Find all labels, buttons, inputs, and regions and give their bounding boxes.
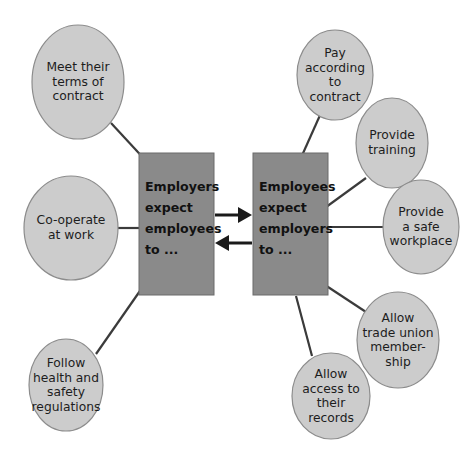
connector-allow-trade-union-membership bbox=[325, 285, 366, 312]
node-meet-terms-of-contract[interactable] bbox=[32, 25, 124, 139]
connector-allow-access-to-records bbox=[296, 296, 312, 356]
node-pay-according-to-contract[interactable] bbox=[297, 30, 373, 120]
node-co-operate-at-work[interactable] bbox=[24, 176, 118, 280]
label-employees-expect: Employees expect employers to ... bbox=[259, 176, 329, 260]
arrow-employers-to-employees-head bbox=[238, 207, 252, 223]
connector-follow-health-and-safety bbox=[96, 288, 142, 354]
node-provide-safe-workplace[interactable] bbox=[383, 180, 459, 274]
node-allow-trade-union-membership[interactable] bbox=[357, 292, 439, 388]
node-provide-training[interactable] bbox=[356, 98, 428, 188]
diagram-canvas: Meet their terms of contract Co-operate … bbox=[0, 0, 472, 459]
diagram-vector-layer bbox=[0, 0, 472, 459]
ellipse-group bbox=[24, 25, 459, 439]
arrow-employees-to-employers-head bbox=[215, 235, 229, 251]
node-allow-access-to-records[interactable] bbox=[292, 353, 370, 439]
label-employers-expect: Employers expect employees to ... bbox=[145, 176, 215, 260]
node-follow-health-and-safety[interactable] bbox=[29, 339, 103, 431]
